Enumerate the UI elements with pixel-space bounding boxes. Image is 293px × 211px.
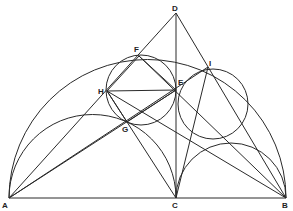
label-C: C: [172, 201, 178, 210]
segment-AD: [9, 13, 176, 198]
semicircle-AC: [9, 115, 176, 198]
label-G: G: [122, 125, 128, 134]
label-H: H: [98, 87, 104, 96]
segment-HC: [107, 91, 176, 198]
segment-BH: [107, 91, 286, 198]
label-E: E: [178, 78, 184, 87]
label-F: F: [134, 45, 139, 54]
construction-lines: [9, 13, 286, 198]
segment-BF: [139, 56, 286, 198]
segment-BD: [176, 13, 286, 198]
label-A: A: [2, 201, 8, 210]
arbelos-diagram: A B C D E F G H I: [0, 0, 293, 211]
point-labels: A B C D E F G H I: [2, 4, 288, 210]
segment-HE: [107, 90, 176, 91]
label-B: B: [282, 201, 288, 210]
label-D: D: [172, 4, 178, 13]
label-I: I: [209, 59, 211, 68]
